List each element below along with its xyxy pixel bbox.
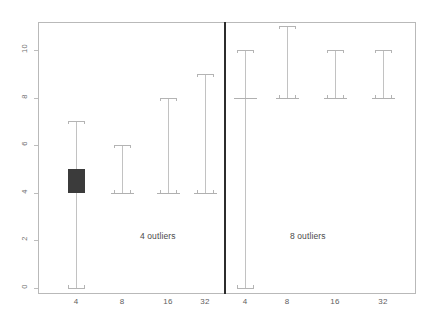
- whisker-line: [383, 50, 384, 98]
- whisker-line: [335, 50, 336, 98]
- upper-cap-tick: [130, 145, 131, 148]
- y-tick-label: 10: [20, 41, 29, 57]
- x-tick-label: 16: [321, 297, 349, 306]
- boxplot-32: [373, 48, 394, 100]
- whisker-line: [205, 74, 206, 193]
- upper-cap-tick: [197, 74, 198, 77]
- y-tick-label: 0: [20, 279, 29, 295]
- lower-cap-tick: [237, 285, 238, 288]
- x-tick-label: 16: [154, 297, 182, 306]
- upper-cap-tick: [295, 26, 296, 29]
- boxplot-32: [195, 72, 216, 195]
- boxplot-8: [277, 24, 298, 99]
- whisker-line: [76, 121, 77, 288]
- upper-whisker-cap: [160, 98, 177, 99]
- panel-divider: [224, 22, 226, 294]
- lower-whisker-cap: [68, 288, 85, 289]
- lower-cap-tick: [253, 285, 254, 288]
- upper-whisker-cap: [375, 50, 392, 51]
- whisker-line: [245, 50, 246, 288]
- lower-cap-tick: [84, 285, 85, 288]
- median-line: [157, 193, 180, 194]
- upper-whisker-cap: [279, 26, 296, 27]
- upper-cap-tick: [84, 121, 85, 124]
- upper-cap-tick: [279, 26, 280, 29]
- y-tick-label: 4: [20, 183, 29, 199]
- upper-cap-tick: [176, 98, 177, 101]
- upper-whisker-cap: [327, 50, 344, 51]
- whisker-line: [287, 26, 288, 97]
- upper-cap-tick: [68, 121, 69, 124]
- chart-canvas: 0246810 481632481632 4 outliers 8 outlie…: [0, 0, 432, 318]
- whisker-line: [122, 145, 123, 193]
- boxplot-4: [66, 119, 87, 290]
- y-tick-label: 2: [20, 231, 29, 247]
- x-tick-label: 32: [369, 297, 397, 306]
- y-tick-mark: [34, 145, 38, 146]
- y-tick-mark: [34, 193, 38, 194]
- upper-cap-tick: [375, 50, 376, 53]
- y-tick-mark: [34, 288, 38, 289]
- median-line: [324, 98, 347, 99]
- x-tick-label: 4: [231, 297, 259, 306]
- boxplot-16: [158, 96, 179, 195]
- boxplot-4: [235, 48, 256, 290]
- box-iqr: [68, 169, 85, 193]
- median-line: [111, 193, 134, 194]
- upper-whisker-cap: [237, 50, 254, 51]
- upper-cap-tick: [343, 50, 344, 53]
- median-line: [372, 98, 395, 99]
- lower-whisker-cap: [237, 288, 254, 289]
- upper-cap-tick: [327, 50, 328, 53]
- y-tick-label: 8: [20, 88, 29, 104]
- y-tick-mark: [34, 240, 38, 241]
- whisker-line: [168, 98, 169, 193]
- boxplot-16: [325, 48, 346, 100]
- upper-cap-tick: [160, 98, 161, 101]
- upper-whisker-cap: [114, 145, 131, 146]
- y-tick-mark: [34, 98, 38, 99]
- y-tick-label: 6: [20, 136, 29, 152]
- panel-note-left: 4 outliers: [140, 231, 176, 241]
- upper-cap-tick: [114, 145, 115, 148]
- boxplot-8: [112, 143, 133, 195]
- x-tick-label: 8: [108, 297, 136, 306]
- upper-cap-tick: [237, 50, 238, 53]
- x-tick-label: 8: [273, 297, 301, 306]
- upper-whisker-cap: [68, 121, 85, 122]
- panel-note-right: 8 outliers: [290, 231, 326, 241]
- y-tick-mark: [34, 50, 38, 51]
- lower-cap-tick: [68, 285, 69, 288]
- median-line: [194, 193, 217, 194]
- upper-cap-tick: [253, 50, 254, 53]
- upper-cap-tick: [391, 50, 392, 53]
- median-line: [276, 98, 299, 99]
- upper-cap-tick: [213, 74, 214, 77]
- x-tick-label: 4: [62, 297, 90, 306]
- plot-frame: [38, 22, 416, 294]
- x-tick-label: 32: [191, 297, 219, 306]
- median-line: [234, 98, 257, 99]
- upper-whisker-cap: [197, 74, 214, 75]
